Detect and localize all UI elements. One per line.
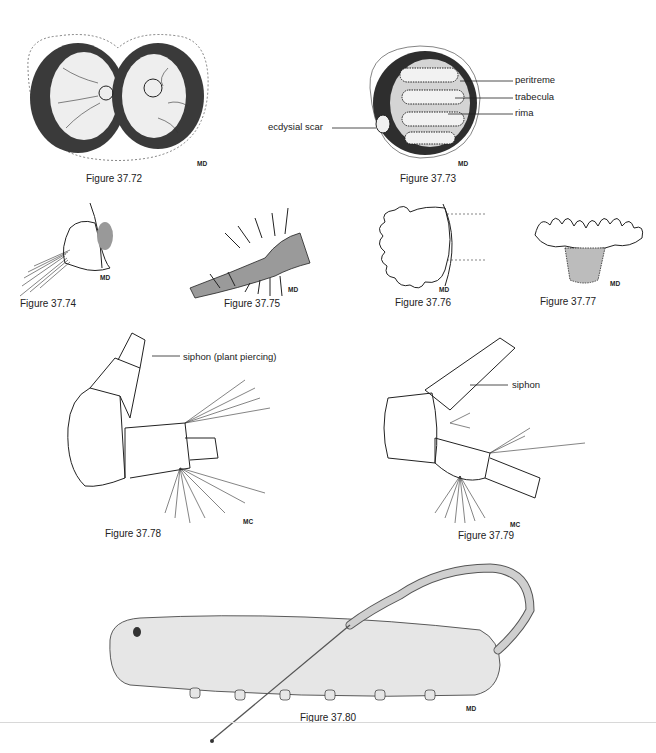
figure-37-80: MD Figure 37.80 [100, 560, 560, 753]
figure-caption: Figure 37.76 [395, 297, 451, 308]
figure-caption: Figure 37.73 [400, 173, 456, 184]
illustrator-initials: MD [610, 280, 620, 287]
label-rima: rima [515, 107, 533, 118]
illustrator-initials: MC [510, 521, 520, 528]
figure-37-79: siphon MC Figure 37.79 [340, 318, 640, 540]
illustrator-initials: MC [243, 518, 253, 525]
illustrator-initials: MD [458, 160, 468, 167]
figure-caption: Figure 37.75 [224, 298, 280, 309]
figure-37-76: MD Figure 37.76 [375, 200, 495, 308]
label-peritreme: peritreme [515, 74, 555, 85]
figure-37-73: peritreme trabecula rima ecdysial scar M… [250, 8, 570, 178]
figure-37-78: siphon (plant piercing) MC Figure 37.78 [30, 318, 330, 540]
figure-37-74: MD Figure 37.74 [10, 188, 140, 308]
label-trabecula: trabecula [515, 91, 554, 102]
lobed-spiracle-illustration [375, 200, 495, 290]
branched-spiracle-illustration [180, 188, 330, 298]
figure-caption: Figure 37.77 [540, 296, 596, 307]
label-siphon: siphon [512, 379, 540, 390]
larval-terminal-segments-siphon-illustration [340, 318, 640, 528]
figure-37-75: MD Figure 37.75 [180, 188, 330, 308]
page-divider [0, 722, 656, 723]
illustrator-initials: MD [197, 160, 207, 167]
figure-caption: Figure 37.74 [20, 298, 76, 309]
fan-spiracle-illustration [530, 210, 650, 290]
illustrator-initials: MD [288, 286, 298, 293]
larval-terminal-segments-plant-piercing-illustration [30, 318, 330, 528]
illustrator-initials: MD [439, 286, 449, 293]
label-ecdysial-scar: ecdysial scar [268, 121, 323, 132]
spiracle-pair-illustration [18, 8, 218, 158]
figure-37-72: MD Figure 37.72 [18, 8, 218, 178]
figure-caption: Figure 37.78 [105, 528, 161, 539]
label-siphon-plant-piercing: siphon (plant piercing) [183, 351, 276, 362]
prothoracic-spiracle-illustration [10, 188, 140, 298]
figure-37-77: MD Figure 37.77 [530, 210, 650, 308]
illustrator-initials: MD [100, 274, 110, 281]
illustrator-initials: MD [466, 705, 476, 712]
figure-caption: Figure 37.79 [458, 530, 514, 541]
figure-caption: Figure 37.72 [86, 173, 142, 184]
